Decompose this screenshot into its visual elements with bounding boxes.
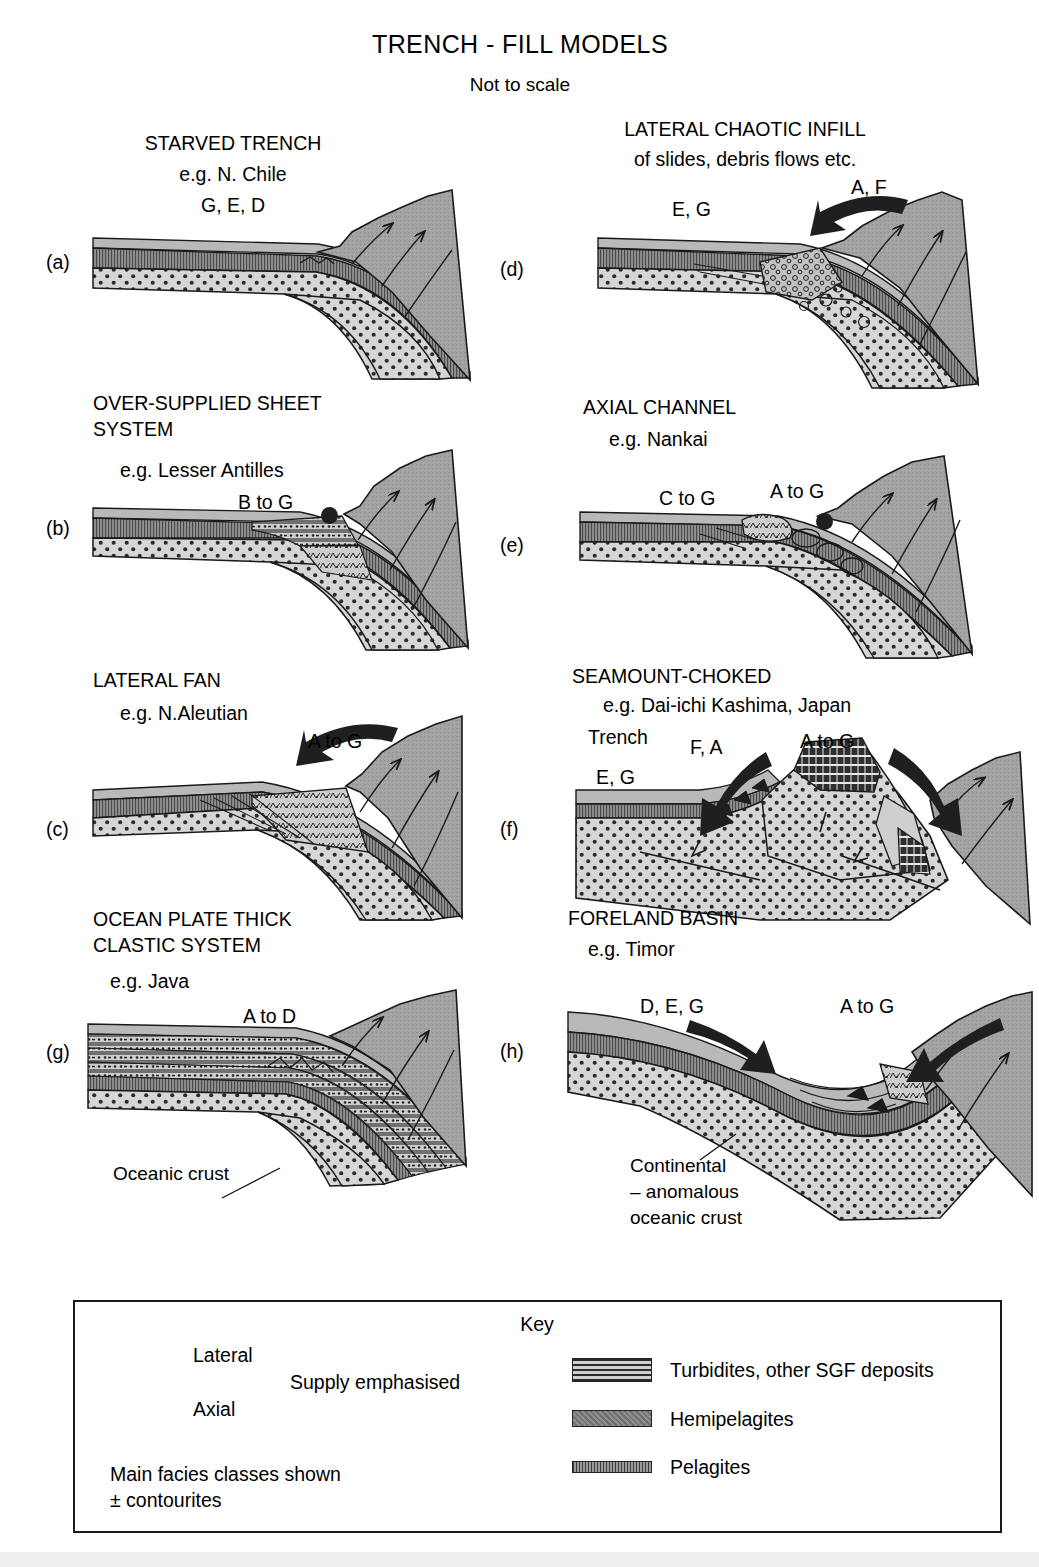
- panel-e-axial-dot: [816, 513, 833, 530]
- panel-a-example: e.g. N. Chile: [179, 163, 286, 185]
- panel-c-diagram: [93, 716, 462, 920]
- figure-page: TRENCH - FILL MODELS Not to scale: [0, 0, 1039, 1567]
- legend-swatch-pelagites: [572, 1461, 652, 1473]
- panel-a-heading: STARVED TRENCH: [145, 132, 322, 154]
- page-bottom-strip: [0, 1552, 1039, 1567]
- legend-swatch-hemipelagites: [572, 1410, 652, 1427]
- panel-f-heading: SEAMOUNT-CHOKED: [572, 665, 771, 687]
- panel-f-facies-2: E, G: [596, 766, 635, 788]
- panel-d-facies-0: E, G: [672, 198, 711, 220]
- panel-d-diagram: [598, 192, 978, 388]
- panel-label-g: (g): [46, 1041, 70, 1063]
- key-lateral-label: Lateral: [193, 1344, 253, 1366]
- panel-a-diagram: [93, 190, 470, 380]
- panel-f-facies-1: A to G: [800, 730, 854, 752]
- panel-c-heading: LATERAL FAN: [93, 669, 221, 691]
- panel-h-heading: FORELAND BASIN: [568, 907, 738, 929]
- panel-b-heading: OVER-SUPPLIED SHEET: [93, 392, 322, 414]
- continental-annotation-line-1: Continental: [630, 1155, 726, 1177]
- panel-b-axial-dot: [321, 507, 338, 524]
- panel-b-facies-0: B to G: [238, 491, 293, 513]
- panel-label-a: (a): [46, 251, 70, 273]
- panel-b-example: e.g. Lesser Antilles: [120, 459, 284, 481]
- panel-label-d: (d): [500, 258, 524, 280]
- panel-label-h: (h): [500, 1040, 524, 1062]
- legend-swatch-turbidites: [572, 1358, 652, 1382]
- panel-h-facies-1: A to G: [840, 995, 894, 1017]
- key-title: Key: [520, 1313, 554, 1335]
- panel-g-heading-2: CLASTIC SYSTEM: [93, 934, 261, 956]
- panel-f-example-2: Trench: [588, 726, 648, 748]
- legend-label-hemipelagites: Hemipelagites: [670, 1408, 794, 1430]
- key-note-line-1: Main facies classes shown: [110, 1463, 341, 1485]
- panel-label-b: (b): [46, 517, 70, 539]
- continental-annotation-line-2: – anomalous: [630, 1181, 739, 1203]
- panel-label-e: (e): [500, 534, 524, 556]
- panel-e-facies-0: C to G: [659, 487, 715, 509]
- legend-label-turbidites: Turbidites, other SGF deposits: [670, 1359, 934, 1381]
- panel-e-facies-1: A to G: [770, 480, 824, 502]
- panel-d-heading: LATERAL CHAOTIC INFILL: [624, 118, 866, 140]
- panel-label-c: (c): [46, 818, 69, 840]
- panel-g-facies-0: A to D: [243, 1005, 296, 1027]
- key-supply-brace-label: Supply emphasised: [290, 1371, 460, 1393]
- panel-e-heading: AXIAL CHANNEL: [583, 396, 736, 418]
- panel-h-facies-0: D, E, G: [640, 995, 704, 1017]
- panel-f-diagram: [576, 738, 1030, 924]
- key-note-line-2: ± contourites: [110, 1489, 222, 1511]
- panel-c-facies-0: A to G: [308, 730, 362, 752]
- panel-a-facies-0: G, E, D: [201, 194, 265, 216]
- panel-label-f: (f): [500, 818, 518, 840]
- key-axial-label: Axial: [193, 1398, 235, 1420]
- panel-c-example: e.g. N.Aleutian: [120, 702, 248, 724]
- panel-g-heading: OCEAN PLATE THICK: [93, 908, 292, 930]
- legend-label-pelagites: Pelagites: [670, 1456, 750, 1478]
- panel-h-example: e.g. Timor: [588, 938, 675, 960]
- panel-f-facies-0: F, A: [690, 736, 723, 758]
- panel-d-heading-2: of slides, debris flows etc.: [634, 148, 856, 170]
- panel-f-example: e.g. Dai-ichi Kashima, Japan: [603, 694, 851, 716]
- panel-b-heading-2: SYSTEM: [93, 418, 173, 440]
- panel-e-example: e.g. Nankai: [609, 428, 708, 450]
- continental-annotation-line-3: oceanic crust: [630, 1207, 742, 1229]
- panel-g-example: e.g. Java: [110, 970, 189, 992]
- panel-d-facies-1: A, F: [851, 176, 887, 198]
- oceanic-crust-annotation: Oceanic crust: [113, 1163, 229, 1185]
